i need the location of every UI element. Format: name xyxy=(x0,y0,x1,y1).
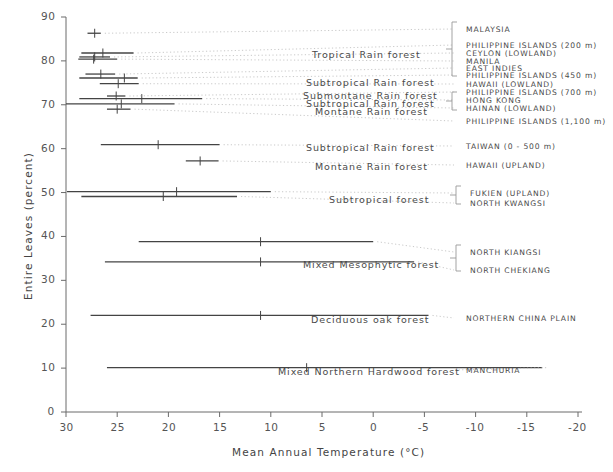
forest-type-label: Montane Rain forest xyxy=(315,161,428,172)
data-range-bar xyxy=(85,70,115,79)
leader-line xyxy=(119,68,454,74)
forest-type-label: Subtropical Rain forest xyxy=(306,77,435,88)
site-label: MALAYSIA xyxy=(466,25,510,34)
y-axis-tick-label: 80 xyxy=(41,54,55,66)
y-axis-title: Entire Leaves (percent) xyxy=(22,152,34,300)
forest-type-label: Subtropical Rain forest xyxy=(306,142,435,153)
data-range-bar xyxy=(186,156,219,165)
bracket-subtropical-forest xyxy=(456,186,461,204)
x-axis-tick-label: 20 xyxy=(162,421,176,433)
bracket-tropical-rain-forest xyxy=(452,22,457,76)
site-label: FUKIEN (UPLAND) xyxy=(470,189,550,198)
leader-line xyxy=(377,242,454,252)
x-axis-tick-label: -5 xyxy=(418,421,429,433)
x-axis-tick-label: 30 xyxy=(59,421,73,433)
x-axis-tick-label: 15 xyxy=(213,421,227,433)
y-axis-tick-label: 40 xyxy=(41,229,55,241)
leader-line xyxy=(432,315,454,318)
y-axis-tick-label: 70 xyxy=(41,98,55,110)
data-range-bar xyxy=(66,99,175,108)
data-range-bar xyxy=(79,74,137,83)
forest-type-label: Tropical Rain forest xyxy=(312,49,421,60)
forest-type-label: Mixed Mesophytic forest xyxy=(303,259,439,270)
y-axis-tick-label: 0 xyxy=(48,405,55,417)
x-axis-tick-label: 0 xyxy=(370,421,377,433)
forest-type-label: Subtropical forest xyxy=(329,194,429,205)
site-label: NORTH CHEKIANG xyxy=(470,266,551,275)
site-label: PHILIPPINE ISLANDS (450 m) xyxy=(466,71,597,80)
data-range-bar xyxy=(81,48,133,57)
data-range-bar xyxy=(107,105,131,114)
site-label: NORTHERN CHINA PLAIN xyxy=(466,314,577,323)
site-label: MANCHURIA xyxy=(466,366,520,375)
site-label: PHILIPPINE ISLANDS (1,100 m) xyxy=(466,117,606,126)
data-range-bar xyxy=(67,187,271,196)
site-label: NORTH KIANGSI xyxy=(470,248,541,257)
y-axis-tick-label: 90 xyxy=(41,10,55,22)
data-range-bar xyxy=(88,29,101,38)
data-range-bar xyxy=(101,140,220,149)
x-axis-tick-label: 25 xyxy=(111,421,125,433)
data-range-bar xyxy=(79,52,110,61)
site-label: NORTH KWANGSI xyxy=(470,199,546,208)
x-axis-tick-label: 10 xyxy=(264,421,278,433)
y-axis-tick-label: 10 xyxy=(41,361,55,373)
site-label: HAWAII (UPLAND) xyxy=(466,161,546,170)
leader-line xyxy=(275,192,454,193)
x-axis-title: Mean Annual Temperature (°C) xyxy=(232,446,425,458)
site-label: TAIWAN (0 - 500 m) xyxy=(466,142,556,151)
bracket-mixed-mesophytic xyxy=(456,245,461,271)
data-range-bar xyxy=(100,79,139,88)
y-axis-tick-label: 20 xyxy=(41,317,55,329)
bracket-subtropical-montane xyxy=(452,92,457,110)
data-range-bar xyxy=(139,237,373,246)
x-axis-tick-label: -10 xyxy=(466,421,485,433)
chart-figure: 0102030405060708090302520151050-5-10-15-… xyxy=(0,0,613,472)
forest-type-label: Montane Rain forest xyxy=(315,106,428,117)
x-axis-tick-label: -20 xyxy=(568,421,587,433)
y-axis-tick-label: 30 xyxy=(41,273,55,285)
y-axis-tick-label: 50 xyxy=(41,186,55,198)
forest-type-label: Deciduous oak forest xyxy=(311,314,429,325)
forest-type-label: Mixed Northern Hardwood forest xyxy=(278,366,460,377)
site-label: HAINAN (LOWLAND) xyxy=(466,104,556,113)
x-axis-tick-label: 5 xyxy=(319,421,326,433)
y-axis-tick-label: 60 xyxy=(41,142,55,154)
leader-line xyxy=(105,29,454,33)
data-range-bar xyxy=(78,55,117,64)
data-range-bar xyxy=(81,192,237,201)
x-axis-tick-label: -15 xyxy=(517,421,536,433)
